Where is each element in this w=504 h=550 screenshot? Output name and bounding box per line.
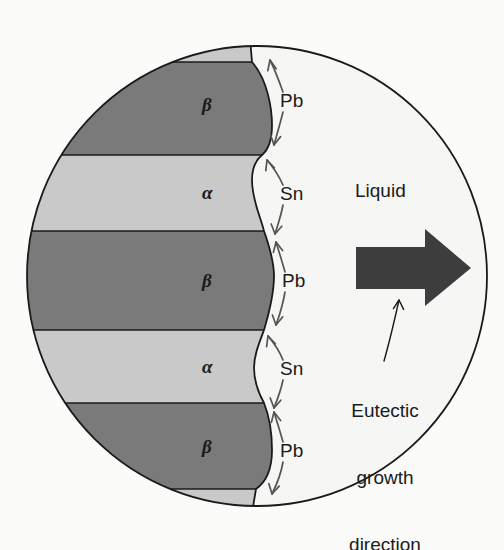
growth-caption-line-1: Eutectic	[322, 400, 448, 422]
diffusion-label-pb-3: Pb	[280, 440, 303, 462]
phase-label-beta-2: β	[202, 270, 212, 292]
liquid-region-label: Liquid	[355, 180, 406, 202]
diffusion-label-sn-1: Sn	[280, 183, 303, 205]
diffusion-label-pb-2: Pb	[282, 270, 305, 292]
figure-canvas: β α β α β Pb Sn Pb Sn Pb Liquid Eutectic…	[0, 0, 504, 550]
phase-label-alpha-2: α	[202, 356, 213, 378]
growth-caption-line-2: growth	[322, 467, 448, 489]
growth-caption-line-3: direction	[322, 534, 448, 550]
diffusion-label-sn-2: Sn	[280, 358, 303, 380]
phase-label-beta-1: β	[202, 94, 212, 116]
phase-label-alpha-1: α	[202, 182, 213, 204]
growth-direction-caption: Eutectic growth direction	[322, 355, 448, 550]
phase-label-beta-3: β	[202, 436, 212, 458]
diffusion-label-pb-1: Pb	[280, 90, 303, 112]
